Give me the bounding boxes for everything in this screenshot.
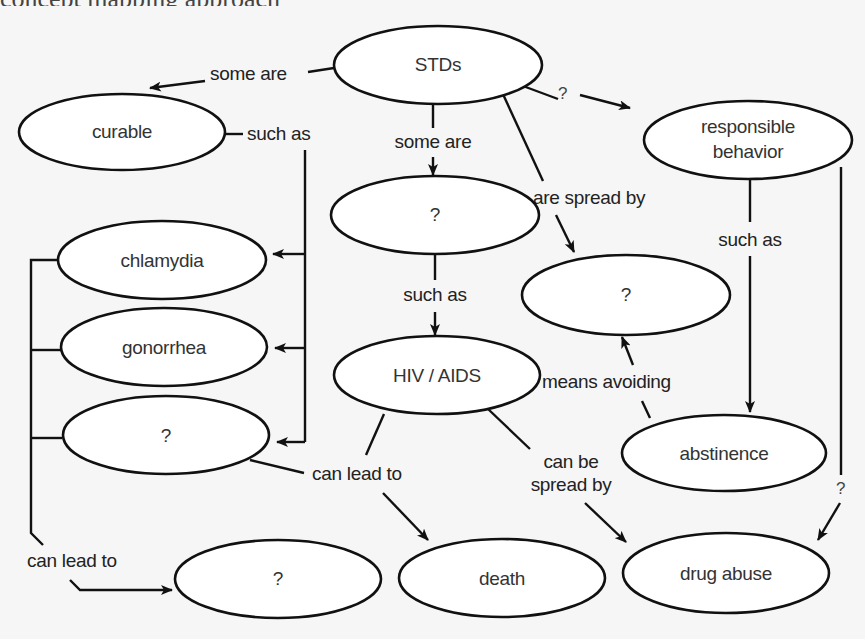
node-curable-label: curable (92, 121, 152, 142)
node-chlamydia[interactable]: chlamydia (58, 221, 266, 299)
label-spread-by: spread by (531, 474, 613, 495)
edge-to-death (383, 493, 428, 540)
node-gonorrhea[interactable]: gonorrhea (61, 308, 267, 386)
label-such-as-curable: such as (247, 123, 310, 144)
edge-left-bracket (31, 260, 58, 545)
node-stds[interactable]: STDs (334, 26, 542, 104)
edge-stds-spread-b (556, 215, 574, 252)
node-stds-label: STDs (415, 54, 461, 75)
node-responsible-behavior[interactable]: responsible behavior (644, 101, 852, 179)
node-spread-unknown[interactable]: ? (522, 255, 730, 335)
node-hiv-aids-label: HIV / AIDS (393, 365, 481, 386)
node-middle-unknown[interactable]: ? (331, 176, 539, 254)
node-death[interactable]: death (399, 539, 605, 617)
label-can-lead-to-bottom: can lead to (27, 550, 117, 571)
node-bottom-unknown-label: ? (273, 568, 283, 589)
node-responsible-label-2: behavior (713, 141, 784, 162)
node-death-label: death (479, 568, 525, 589)
node-abstinence-label: abstinence (680, 443, 769, 464)
node-hiv-aids[interactable]: HIV / AIDS (334, 336, 540, 414)
node-spread-unknown-label: ? (621, 284, 631, 305)
node-middle-unknown-label: ? (430, 204, 440, 225)
label-are-spread-by: are spread by (533, 187, 646, 208)
edge-stds-curable-a (308, 68, 334, 72)
node-drug-abuse[interactable]: drug abuse (623, 533, 829, 613)
edge-to-bottom-unknown (70, 580, 172, 590)
node-bottom-unknown[interactable]: ? (175, 540, 381, 618)
node-responsible-label-1: responsible (701, 116, 795, 137)
edge-stds-responsible-a (523, 86, 558, 99)
node-drug-abuse-label: drug abuse (680, 563, 772, 584)
label-such-as-hiv: such as (403, 284, 466, 305)
label-q-responsible: ? (558, 84, 567, 103)
edge-resp-drug-b (818, 503, 840, 540)
edge-abst-spread-b (622, 337, 633, 365)
edge-left-death-a (250, 460, 304, 473)
edge-stds-responsible-b (580, 95, 630, 108)
node-gonorrhea-label: gonorrhea (122, 337, 207, 358)
node-left-unknown-label: ? (161, 425, 171, 446)
label-can-lead-to-death: can lead to (312, 463, 402, 484)
edge-abst-spread-a (642, 401, 650, 418)
label-can-be: can be (543, 451, 598, 472)
node-abstinence[interactable]: abstinence (622, 415, 826, 491)
label-such-as-abstinence: such as (718, 229, 781, 250)
label-q-drug: ? (836, 479, 845, 498)
concept-map-page: concept mapping approach some are ? such… (0, 0, 865, 639)
node-curable[interactable]: curable (19, 94, 225, 170)
node-left-unknown[interactable]: ? (63, 396, 269, 474)
label-means-avoiding: means avoiding (542, 371, 671, 392)
edge-stds-spread-a (502, 92, 543, 181)
label-some-are-curable: some are (210, 63, 287, 84)
edge-hiv-drug-b (585, 503, 626, 542)
label-some-are-middle: some are (395, 131, 472, 152)
edge-hiv-death-a (366, 414, 384, 455)
concept-map-diagram: some are ? such as some are are spread b… (0, 0, 865, 639)
edge-stds-curable-b (150, 81, 205, 88)
node-chlamydia-label: chlamydia (121, 250, 205, 271)
edge-hiv-drug-a (488, 409, 530, 449)
